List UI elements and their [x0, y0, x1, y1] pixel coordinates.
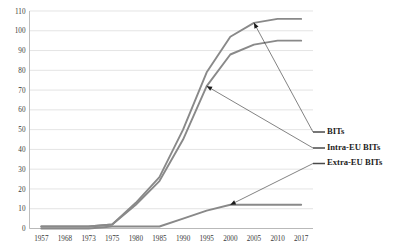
y-axis-tick-label: 60: [18, 106, 26, 114]
series-line-extra-eu-bits: [41, 205, 301, 229]
x-axis-tick-labels: 1957196819731975198019851990199520002005…: [34, 235, 309, 243]
y-axis-tick-label: 90: [18, 47, 26, 55]
annotation-arrowhead-0: [254, 23, 259, 29]
y-axis-tick-label: 100: [15, 27, 26, 35]
x-axis-tick-label: 2005: [247, 235, 262, 243]
annotation-leader-1: [207, 86, 313, 148]
x-axis-tick-label: 1973: [81, 235, 96, 243]
axes: [30, 11, 314, 229]
y-axis-tick-label: 50: [18, 126, 26, 134]
x-axis-tick-label: 1980: [129, 235, 144, 243]
x-axis-tick-label: 1985: [152, 235, 167, 243]
annotation-leader-0: [254, 23, 313, 132]
legend: BITsIntra-EU BITsExtra-EU BITs: [313, 126, 383, 168]
x-axis-tick-label: 2000: [223, 235, 238, 243]
y-axis-tick-label: 30: [18, 166, 26, 174]
y-axis-tick-label: 40: [18, 146, 26, 154]
annotation-leader-2: [230, 164, 313, 205]
legend-label-intra-eu-bits: Intra-EU BITs: [327, 142, 381, 152]
y-axis-tick-label: 20: [18, 186, 26, 194]
y-axis-tick-label: 110: [15, 8, 26, 16]
legend-label-extra-eu-bits: Extra-EU BITs: [327, 157, 383, 167]
x-axis-tick-label: 2017: [294, 235, 309, 243]
x-axis-tick-label: 1995: [200, 235, 215, 243]
line-chart: 0102030405060708090100110 19571968197319…: [0, 0, 398, 249]
x-axis-tick-label: 2010: [270, 235, 285, 243]
y-axis-tick-label: 70: [18, 87, 26, 95]
x-axis-tick-label: 1990: [176, 235, 191, 243]
y-axis-tick-label: 10: [18, 205, 26, 213]
chart-container: 0102030405060708090100110 19571968197319…: [0, 0, 398, 249]
x-axis-tick-label: 1968: [58, 235, 73, 243]
y-axis-tick-label: 80: [18, 67, 26, 75]
legend-label-bits: BITs: [327, 126, 345, 136]
x-axis-tick-label: 1975: [105, 235, 120, 243]
x-axis-tick-label: 1957: [34, 235, 49, 243]
gridlines: [30, 11, 314, 229]
y-axis-tick-label: 0: [22, 225, 26, 233]
annotation-leaders: [207, 23, 313, 205]
series-line-intra-eu-bits: [41, 41, 301, 227]
y-axis-tick-labels: 0102030405060708090100110: [15, 8, 26, 234]
series-line-bits: [41, 19, 301, 227]
